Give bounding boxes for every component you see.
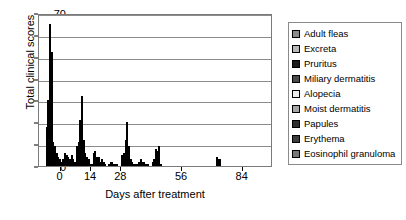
legend-item: Excreta [292, 41, 399, 56]
legend: Adult fleasExcretaPruritusMiliary dermat… [288, 22, 402, 165]
legend-item: Miliary dermatitis [292, 71, 399, 86]
x-axis-tick-label: 0 [57, 170, 63, 182]
legend-item: Pruritus [292, 56, 399, 71]
x-axis-tick-mark [120, 167, 121, 171]
y-axis-title: Total clinical scores [24, 0, 36, 142]
legend-item-label: Excreta [304, 44, 336, 54]
legend-item: Erythema [292, 131, 399, 146]
legend-swatch-icon [292, 120, 300, 128]
legend-item: Adult fleas [292, 26, 399, 41]
legend-swatch-icon [292, 75, 300, 83]
x-axis-tick-mark [90, 167, 91, 171]
legend-item-label: Moist dermatitis [304, 104, 371, 114]
legend-item-label: Eosinophil granuloma [304, 149, 395, 159]
x-axis-tick-label: 28 [114, 170, 126, 182]
legend-item-label: Erythema [304, 134, 345, 144]
plot-area [38, 14, 272, 167]
legend-swatch-icon [292, 105, 300, 113]
x-axis-tick-label: 56 [175, 170, 187, 182]
x-axis-tick-label: 84 [236, 170, 248, 182]
x-axis-title: Days after treatment [38, 188, 272, 200]
legend-swatch-icon [292, 45, 300, 53]
legend-item: Alopecia [292, 86, 399, 101]
legend-swatch-icon [292, 150, 300, 158]
legend-item-label: Alopecia [304, 89, 340, 99]
bar [219, 159, 221, 166]
legend-item-label: Papules [304, 119, 338, 129]
x-axis-tick-mark [181, 167, 182, 171]
legend-item: Moist dermatitis [292, 101, 399, 116]
bar-chart-figure: Total clinical scores 706050403020100 01… [0, 0, 406, 220]
x-axis-tick-mark [242, 167, 243, 171]
legend-swatch-icon [292, 135, 300, 143]
legend-item-label: Miliary dermatitis [304, 74, 375, 84]
bar [104, 164, 106, 166]
bar [147, 164, 149, 166]
legend-swatch-icon [292, 60, 300, 68]
legend-swatch-icon [292, 90, 300, 98]
legend-item-label: Adult fleas [304, 29, 348, 39]
legend-item: Eosinophil granuloma [292, 146, 399, 161]
x-axis-tick-mark [60, 167, 61, 171]
legend-item-label: Pruritus [304, 59, 337, 69]
x-axis-tick-label: 14 [84, 170, 96, 182]
legend-swatch-icon [292, 30, 300, 38]
bar [160, 164, 162, 166]
bar [116, 164, 118, 166]
bars-layer [39, 15, 271, 166]
legend-item: Papules [292, 116, 399, 131]
